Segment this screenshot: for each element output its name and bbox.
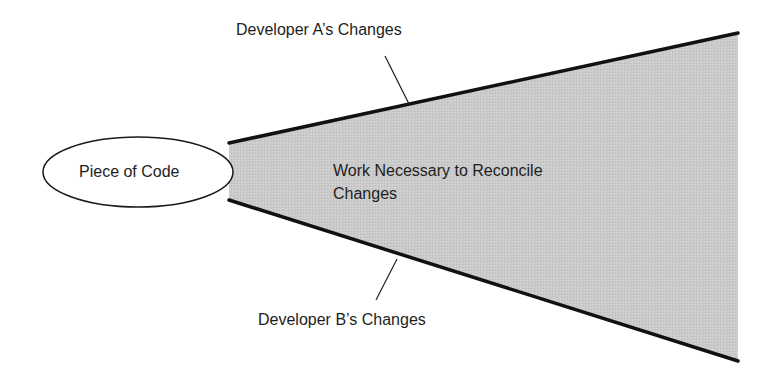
reconcile-work-label: Work Necessary to Reconcile Changes [333,159,543,205]
developer-a-leader [385,56,409,104]
reconcile-work-line-2: Changes [333,182,543,205]
developer-b-leader [376,259,397,300]
reconcile-work-line-1: Work Necessary to Reconcile [333,159,543,182]
piece-of-code-label: Piece of Code [79,162,180,181]
developer-a-label: Developer A’s Changes [236,20,402,39]
diagram-canvas: Developer A’s Changes Developer B’s Chan… [0,0,778,380]
developer-b-label: Developer B’s Changes [258,310,426,329]
